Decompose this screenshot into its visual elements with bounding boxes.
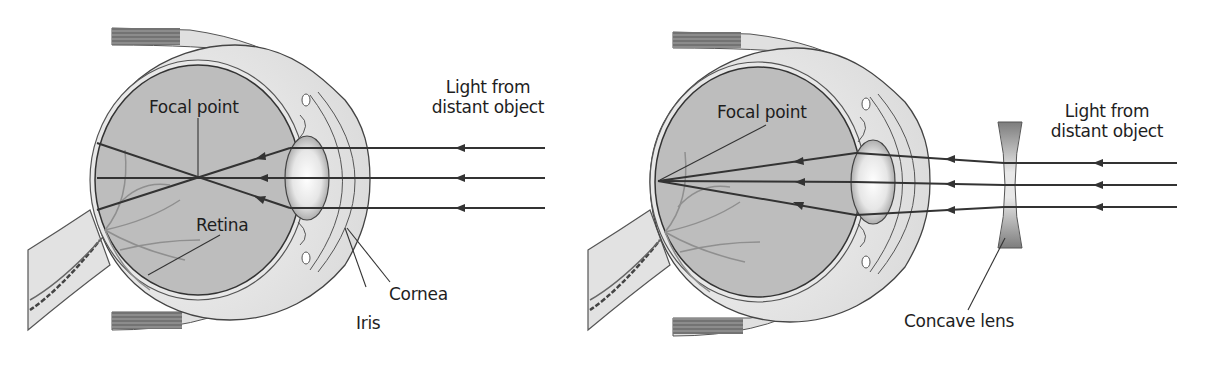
- light-source-label-corrected: Light from distant object: [1032, 101, 1182, 141]
- focal-point-label-corrected: Focal point: [717, 102, 807, 122]
- light-source-line1: Light from: [413, 77, 563, 97]
- muscle-top-icon: [673, 32, 741, 48]
- muscle-bottom-icon: [112, 312, 182, 329]
- light-source-line2: distant object: [413, 97, 563, 117]
- light-source-label: Light from distant object: [413, 77, 563, 117]
- left-eye: [28, 28, 545, 330]
- light-source-line1: Light from: [1032, 101, 1182, 121]
- iris-label: Iris: [356, 313, 380, 333]
- muscle-top-icon: [112, 28, 180, 45]
- concave-lens-label: Concave lens: [904, 311, 1014, 331]
- retina-label: Retina: [196, 215, 248, 235]
- cornea-label: Cornea: [389, 284, 448, 304]
- right-eye: [588, 32, 1177, 336]
- eye-diagram: [0, 0, 1207, 368]
- focal-point-label: Focal point: [149, 97, 239, 117]
- light-source-line2: distant object: [1032, 121, 1182, 141]
- muscle-bottom-icon: [673, 318, 743, 334]
